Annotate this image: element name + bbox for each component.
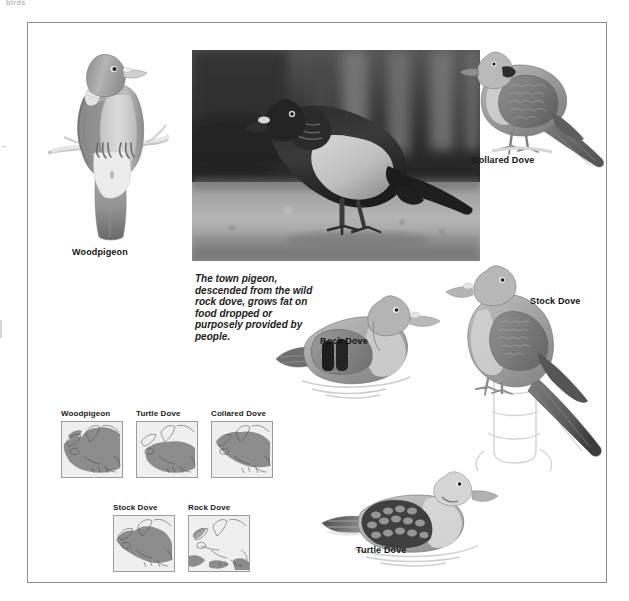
distribution-maps: Woodpigeon bbox=[61, 409, 276, 581]
woodpigeon-illustration bbox=[46, 25, 171, 245]
label-collared-dove: Collared Dove bbox=[472, 155, 534, 165]
collared-dove-illustration bbox=[458, 25, 608, 195]
town-pigeon-photograph bbox=[192, 50, 480, 261]
label-woodpigeon: Woodpigeon bbox=[72, 247, 128, 257]
map-collared-dove bbox=[211, 421, 273, 478]
map-cell-collared-dove: Collared Dove bbox=[211, 409, 277, 483]
map-title-stock-dove: Stock Dove bbox=[113, 503, 158, 512]
map-cell-stock-dove: Stock Dove bbox=[113, 503, 179, 577]
label-turtle-dove: Turtle Dove bbox=[356, 545, 407, 555]
figure-woodpigeon: Woodpigeon bbox=[46, 25, 171, 245]
label-rock-dove: Rock Dove bbox=[320, 336, 368, 346]
map-row-1: Woodpigeon bbox=[61, 409, 276, 487]
rock-dove-illustration bbox=[276, 281, 451, 416]
map-cell-woodpigeon: Woodpigeon bbox=[61, 409, 127, 483]
map-title-woodpigeon: Woodpigeon bbox=[61, 409, 110, 418]
map-stock-dove bbox=[113, 515, 175, 572]
map-title-collared-dove: Collared Dove bbox=[211, 409, 266, 418]
map-cell-turtle-dove: Turtle Dove bbox=[136, 409, 202, 483]
figure-stock-dove: Stock Dove bbox=[440, 261, 610, 476]
label-stock-dove: Stock Dove bbox=[530, 296, 581, 306]
scan-artifact-left-lower bbox=[0, 320, 2, 338]
turtle-dove-illustration bbox=[320, 463, 505, 573]
figure-collared-dove: Collared Dove bbox=[458, 25, 608, 195]
map-turtle-dove bbox=[136, 421, 198, 478]
plate-frame: Woodpigeon bbox=[27, 22, 607, 583]
map-cell-rock-dove: Rock Dove bbox=[188, 503, 254, 577]
figure-turtle-dove: Turtle Dove bbox=[320, 463, 505, 573]
map-title-rock-dove: Rock Dove bbox=[188, 503, 230, 512]
map-rock-dove bbox=[188, 515, 250, 572]
map-row-2: Stock Dove bbox=[113, 503, 276, 581]
figure-rock-dove: Rock Dove bbox=[276, 281, 451, 416]
map-woodpigeon bbox=[61, 421, 123, 478]
stock-dove-illustration bbox=[440, 261, 610, 476]
page-running-head: birds bbox=[6, 0, 26, 7]
scan-artifact-left-upper bbox=[2, 146, 6, 147]
map-title-turtle-dove: Turtle Dove bbox=[136, 409, 181, 418]
